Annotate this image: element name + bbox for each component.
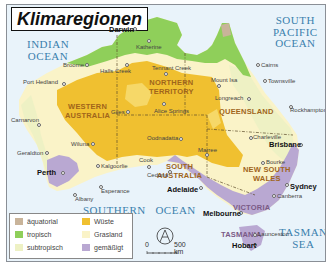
state-nt-line2: TERRITORY xyxy=(149,88,194,97)
city-dot-halls-creek xyxy=(125,63,129,67)
city-dot-longreach xyxy=(247,97,251,101)
ocean-indian-line1: INDIAN xyxy=(27,39,69,51)
city-label-hobart: Hobart xyxy=(232,241,256,250)
legend-item-grasland: Grasland xyxy=(82,231,122,238)
scale-distance-label: 500 km xyxy=(174,241,193,255)
legend-label-aequatorial: äquatorial xyxy=(27,218,58,225)
ocean-pacific-line3: OCEAN xyxy=(273,38,318,50)
state-label-nsw: NEW SOUTH WALES xyxy=(243,166,291,183)
map-frame: Klimaregionen INDIAN OCEAN SOUTH PACIFIC… xyxy=(6,4,326,262)
legend-swatch-subtropisch xyxy=(15,244,23,251)
ocean-label-pacific: SOUTH PACIFIC OCEAN xyxy=(273,15,318,50)
ocean-pacific-line1: SOUTH xyxy=(273,15,318,27)
legend-item-subtropisch: subtropisch xyxy=(15,244,63,251)
legend-label-tropisch: tropisch xyxy=(27,231,52,238)
city-label-rockhampton: Rockhampton xyxy=(290,107,326,113)
city-label-tennant-creek: Tennant Creek xyxy=(152,65,191,71)
city-dot-marree xyxy=(205,153,209,157)
city-label-brisbane: Brisbane xyxy=(269,140,301,149)
city-label-halls-creek: Halls Creek xyxy=(100,68,131,74)
legend-swatch-gemaessigt xyxy=(82,244,90,251)
city-label-geraldton: Geraldton xyxy=(17,150,43,156)
city-label-kalgoorlie: Kalgoorlie xyxy=(101,163,128,169)
ocean-tasman-line2: SEA xyxy=(279,239,326,251)
scale-zero-label: 0 xyxy=(145,241,149,248)
city-dot-oodnadatta xyxy=(179,137,183,141)
legend-label-wueste: Wüste xyxy=(94,218,114,225)
city-dot-tennant-creek xyxy=(164,72,168,76)
city-label-port-hedland: Port Hedland xyxy=(23,79,58,85)
city-dot-geraldton xyxy=(45,151,49,155)
city-dot-port-hedland xyxy=(62,82,66,86)
city-label-carnarvon: Carnarvon xyxy=(11,117,39,123)
legend-item-gemaessigt: gemäßigt xyxy=(82,244,123,251)
city-dot-ceduna xyxy=(168,170,172,174)
legend-swatch-grasland xyxy=(82,231,90,238)
city-label-melbourne: Melbourne xyxy=(203,209,241,218)
city-label-darwin: Darwin xyxy=(109,25,134,34)
legend-label-grasland: Grasland xyxy=(94,231,122,238)
city-label-launceston: Launceston xyxy=(258,231,289,237)
city-label-broome: Broome xyxy=(63,62,84,68)
legend-swatch-wueste xyxy=(82,218,90,225)
city-label-ceduna: Ceduna xyxy=(147,172,168,178)
city-label-marree: Marree xyxy=(198,147,217,153)
scale-bar: 0 500 km xyxy=(143,227,193,257)
legend-label-subtropisch: subtropisch xyxy=(27,244,63,251)
city-dot-katherine xyxy=(147,39,151,43)
ocean-southern-line2: OCEAN xyxy=(155,204,195,216)
city-label-giles: Giles xyxy=(111,109,125,115)
state-label-wa: WESTERN AUSTRALIA xyxy=(65,103,110,120)
city-dot-cook xyxy=(147,165,151,169)
city-label-sydney: Sydney xyxy=(290,182,317,191)
legend-label-gemaessigt: gemäßigt xyxy=(94,244,123,251)
city-label-wiluna: Wiluna xyxy=(71,141,89,147)
legend-swatch-tropisch xyxy=(15,231,23,238)
legend-swatch-aequatorial xyxy=(15,218,23,225)
state-label-qld: QUEENSLAND xyxy=(219,108,274,117)
city-label-canberra: Canberra xyxy=(277,193,302,199)
state-label-nt: NORTHERN TERRITORY xyxy=(149,79,194,96)
city-dot-giles xyxy=(126,110,130,114)
legend-item-aequatorial: äquatorial xyxy=(15,218,58,225)
city-label-cook: Cook xyxy=(139,157,153,163)
city-dot-canberra xyxy=(272,194,276,198)
ocean-label-indian: INDIAN OCEAN xyxy=(27,39,69,62)
city-dot-cairns xyxy=(256,63,260,67)
city-dot-adelaide xyxy=(199,186,203,190)
city-dot-mount-isa xyxy=(217,84,221,88)
city-label-albany: Albany xyxy=(75,196,93,202)
city-dot-bourke xyxy=(261,161,265,165)
city-label-oodnadatta: Oodnadatta xyxy=(147,135,178,141)
city-label-katherine: Katherine xyxy=(136,44,162,50)
state-nsw-line2: WALES xyxy=(243,175,291,184)
legend-item-tropisch: tropisch xyxy=(15,231,52,238)
city-label-perth: Perth xyxy=(37,168,56,177)
city-dot-kalgoorlie xyxy=(96,164,100,168)
ocean-indian-line2: OCEAN xyxy=(27,51,69,63)
city-dot-perth xyxy=(61,171,65,175)
city-label-townsville: Townsville xyxy=(268,78,295,84)
state-wa-line2: AUSTRALIA xyxy=(65,112,110,121)
city-label-longreach: Longreach xyxy=(215,95,243,101)
city-label-mount-isa: Mount Isa xyxy=(211,77,237,83)
legend: äquatorial tropisch subtropisch Wüste Gr… xyxy=(9,213,133,259)
city-dot-carnarvon xyxy=(37,123,41,127)
city-dot-alice-springs xyxy=(162,102,166,106)
city-label-alice-springs: Alice Springs xyxy=(154,108,189,114)
city-dot-broome xyxy=(85,63,89,67)
city-dot-townsville xyxy=(263,79,267,83)
city-label-esperance: Esperance xyxy=(101,188,130,194)
city-dot-wiluna xyxy=(91,142,95,146)
city-label-adelaide: Adelaide xyxy=(167,185,198,194)
city-dot-launceston xyxy=(253,233,257,237)
city-label-cairns: Cairns xyxy=(261,62,278,68)
legend-item-wueste: Wüste xyxy=(82,218,114,225)
city-label-bourke: Bourke xyxy=(266,159,285,165)
city-dot-sydney xyxy=(285,183,289,187)
